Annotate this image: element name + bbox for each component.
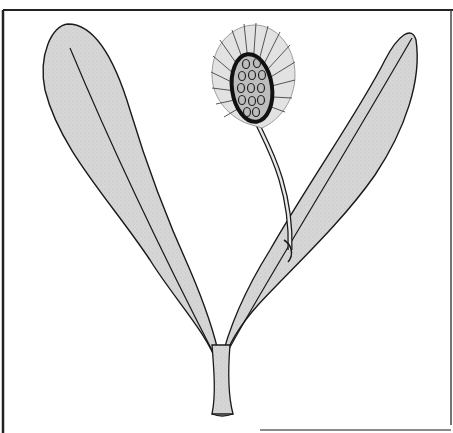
left-leaf <box>43 24 220 365</box>
fan-head <box>211 23 295 128</box>
base-stalk <box>212 345 233 416</box>
illustration-frame <box>0 0 453 433</box>
